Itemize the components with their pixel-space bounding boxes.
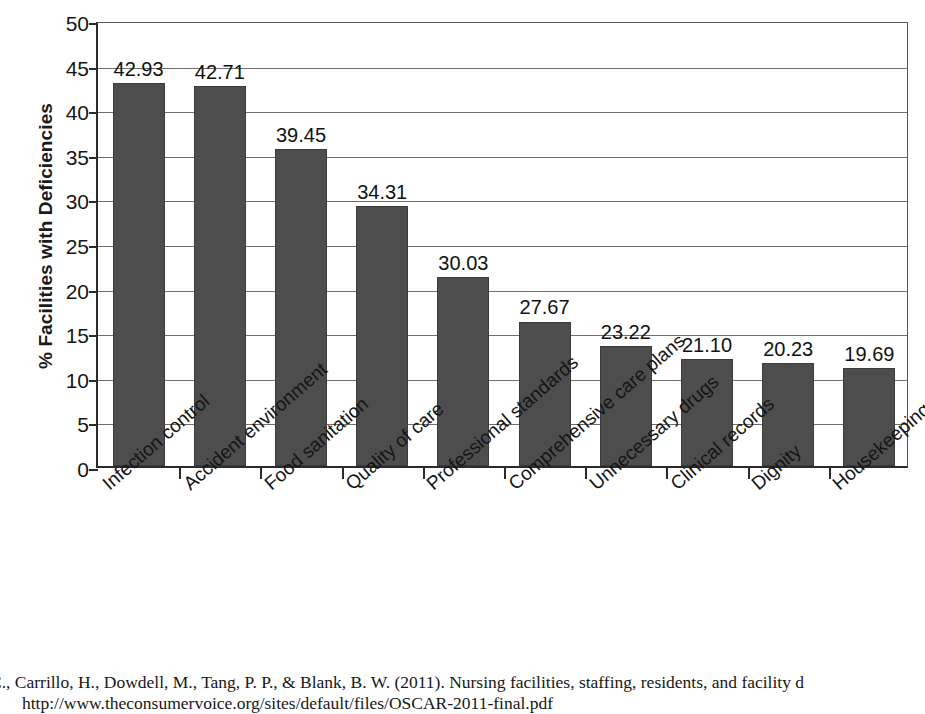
bar-value-label: 42.93	[114, 59, 164, 79]
figure-caption: C., Carrillo, H., Dowdell, M., Tang, P. …	[0, 672, 925, 714]
y-tick-label: 30	[66, 191, 89, 212]
bar	[275, 149, 327, 466]
y-tick-mark	[89, 246, 98, 248]
y-tick-mark	[89, 380, 98, 382]
y-tick-mark	[89, 157, 98, 159]
y-tick-mark	[89, 68, 98, 70]
y-tick-mark	[89, 291, 98, 293]
bar-value-label: 30.03	[438, 253, 488, 273]
y-tick-label: 50	[66, 13, 89, 34]
y-tick-mark	[89, 469, 98, 471]
plot-area: 05101520253035404550 42.9342.7139.4534.3…	[96, 22, 908, 468]
y-tick-mark	[89, 23, 98, 25]
y-tick-label: 25	[66, 236, 89, 257]
bar-value-label: 20.23	[763, 339, 813, 359]
bar-value-label: 27.67	[520, 297, 570, 317]
caption-line-2: http://www.theconsumervoice.org/sites/de…	[22, 693, 925, 714]
y-tick-mark	[89, 424, 98, 426]
bar-value-label: 21.10	[682, 335, 732, 355]
y-axis-title: % Facilities with Deficiencies	[35, 86, 57, 386]
bar-value-label: 23.22	[601, 322, 651, 342]
y-tick-label: 45	[66, 57, 89, 78]
bar-value-label: 39.45	[276, 125, 326, 145]
bar	[113, 83, 165, 466]
y-tick-mark	[89, 112, 98, 114]
y-tick-label: 0	[77, 459, 89, 480]
y-tick-label: 20	[66, 280, 89, 301]
caption-line-1: C., Carrillo, H., Dowdell, M., Tang, P. …	[0, 672, 925, 693]
y-tick-label: 35	[66, 146, 89, 167]
y-tick-label: 40	[66, 102, 89, 123]
y-tick-label: 5	[77, 414, 89, 435]
bar-value-label: 19.69	[844, 344, 894, 364]
bar-chart-figure: % Facilities with Deficiencies 051015202…	[0, 0, 925, 665]
y-tick-label: 15	[66, 325, 89, 346]
y-tick-mark	[89, 335, 98, 337]
y-tick-mark	[89, 201, 98, 203]
bar-value-label: 34.31	[357, 182, 407, 202]
y-tick-label: 10	[66, 369, 89, 390]
bar-value-label: 42.71	[195, 62, 245, 82]
